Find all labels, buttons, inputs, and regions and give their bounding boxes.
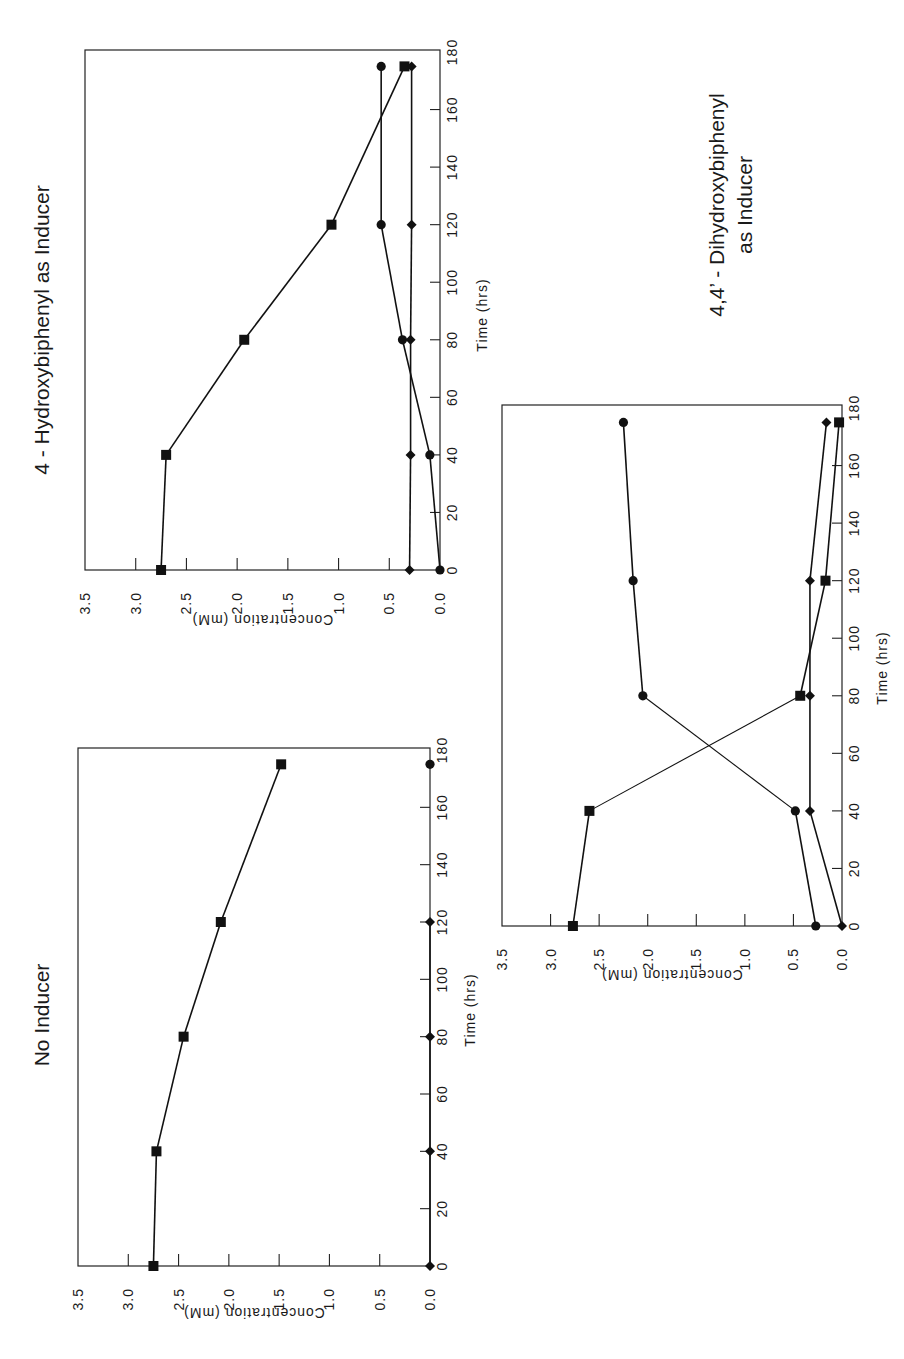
circle-marker — [811, 921, 820, 930]
diamond-marker — [407, 220, 417, 230]
square-marker — [148, 1261, 158, 1271]
plot-frame — [78, 748, 430, 1266]
diamond-marker — [406, 335, 416, 345]
concentration-axis: 0.00.51.01.52.02.53.03.5 — [77, 558, 448, 614]
square-marker — [820, 576, 830, 586]
time-axis: 020406080100120140160180 — [430, 39, 460, 575]
time-tick-label: 160 — [434, 794, 450, 820]
time-tick-label: 120 — [444, 211, 460, 237]
square-marker — [795, 691, 805, 701]
diamond-marker — [405, 565, 415, 575]
concentration-axis: 0.00.51.01.52.02.53.03.5 — [494, 914, 850, 970]
concentration-tick-label: 0.0 — [432, 592, 448, 614]
time-tick-label: 60 — [846, 745, 862, 763]
time-tick-label: 60 — [434, 1085, 450, 1103]
series-circle — [619, 418, 821, 931]
panel-dihydroxy: 0.00.51.01.52.02.53.03.50204060801001201… — [494, 93, 890, 983]
concentration-tick-label: 2.0 — [229, 592, 245, 614]
concentration-axis-title: Concentration (mM) — [183, 1305, 325, 1321]
square-marker — [239, 335, 249, 345]
concentration-tick-label: 1.0 — [331, 592, 347, 614]
square-marker — [151, 1146, 161, 1156]
time-tick-label: 100 — [434, 966, 450, 992]
time-axis-title: Time (hrs) — [462, 973, 478, 1046]
time-tick-label: 0 — [444, 566, 460, 575]
square-marker — [584, 806, 594, 816]
panel-title: No Inducer — [30, 964, 53, 1067]
time-tick-label: 140 — [846, 510, 862, 536]
time-tick-label: 40 — [846, 802, 862, 820]
series-diamond — [805, 417, 847, 931]
time-tick-label: 0 — [434, 1262, 450, 1271]
panel-hydroxy: 0.00.51.01.52.02.53.03.50204060801001201… — [30, 39, 490, 628]
panel-none: 0.00.51.01.52.02.53.03.50204060801001201… — [30, 737, 478, 1321]
circle-marker — [377, 62, 386, 71]
concentration-tick-label: 3.5 — [77, 592, 93, 614]
square-marker — [179, 1032, 189, 1042]
diamond-marker — [805, 576, 815, 586]
concentration-tick-label: 2.5 — [178, 592, 194, 614]
circle-marker — [435, 565, 444, 574]
time-axis: 020406080100120140160180 — [420, 737, 450, 1271]
panel-title: 4 - Hydroxybiphenyl as Inducer — [30, 185, 53, 474]
square-marker — [834, 417, 844, 427]
plot-frame — [85, 50, 440, 570]
square-marker — [161, 450, 171, 460]
time-tick-label: 80 — [846, 687, 862, 705]
circle-marker — [638, 691, 647, 700]
time-axis-title: Time (hrs) — [474, 278, 490, 351]
concentration-tick-label: 3.5 — [494, 948, 510, 970]
square-marker — [216, 917, 226, 927]
concentration-tick-label: 0.0 — [422, 1288, 438, 1310]
time-tick-label: 100 — [444, 269, 460, 295]
concentration-tick-label: 3.5 — [70, 1288, 86, 1310]
concentration-tick-label: 3.0 — [128, 592, 144, 614]
time-axis-title: Time (hrs) — [874, 631, 890, 704]
concentration-tick-label: 0.5 — [785, 948, 801, 970]
concentration-axis-title: Concentration (mM) — [601, 967, 743, 983]
square-marker — [276, 759, 286, 769]
series-square — [156, 61, 409, 575]
time-tick-label: 40 — [434, 1143, 450, 1161]
concentration-tick-label: 3.0 — [543, 948, 559, 970]
time-tick-label: 80 — [444, 331, 460, 349]
time-tick-label: 120 — [846, 567, 862, 593]
concentration-tick-label: 0.5 — [381, 592, 397, 614]
square-marker — [156, 565, 166, 575]
diamond-marker — [805, 806, 815, 816]
circle-marker — [791, 806, 800, 815]
series-circle — [425, 760, 434, 769]
time-tick-label: 100 — [846, 625, 862, 651]
diamond-marker — [406, 450, 416, 460]
time-tick-label: 160 — [846, 452, 862, 478]
time-tick-label: 180 — [444, 39, 460, 65]
time-tick-label: 140 — [444, 154, 460, 180]
time-tick-label: 60 — [444, 389, 460, 407]
time-tick-label: 20 — [444, 504, 460, 522]
plot-frame — [502, 405, 842, 926]
time-tick-label: 40 — [444, 446, 460, 464]
panel-title: 4,4’ - Dihydroxybiphenylas Inducer — [705, 93, 756, 316]
square-marker — [326, 220, 336, 230]
circle-marker — [629, 576, 638, 585]
concentration-axis-title: Concentration (mM) — [192, 612, 334, 628]
time-tick-label: 20 — [846, 860, 862, 878]
time-axis: 020406080100120140160180 — [832, 395, 862, 931]
time-tick-label: 120 — [434, 909, 450, 935]
time-tick-label: 180 — [434, 737, 450, 763]
concentration-axis: 0.00.51.01.52.02.53.03.5 — [70, 1254, 438, 1310]
figure-three-panel-chart: 0.00.51.01.52.02.53.03.50204060801001201… — [0, 0, 904, 1359]
diamond-marker — [821, 417, 831, 427]
time-tick-label: 140 — [434, 851, 450, 877]
concentration-tick-label: 0.5 — [372, 1288, 388, 1310]
diamond-marker — [805, 691, 815, 701]
square-marker — [568, 921, 578, 931]
circle-marker — [619, 418, 628, 427]
concentration-tick-label: 3.0 — [120, 1288, 136, 1310]
time-tick-label: 0 — [846, 922, 862, 931]
concentration-tick-label: 1.5 — [280, 592, 296, 614]
series-square — [148, 759, 286, 1271]
circle-marker — [425, 760, 434, 769]
chart-canvas: 0.00.51.01.52.02.53.03.50204060801001201… — [0, 0, 904, 1359]
time-tick-label: 180 — [846, 395, 862, 421]
